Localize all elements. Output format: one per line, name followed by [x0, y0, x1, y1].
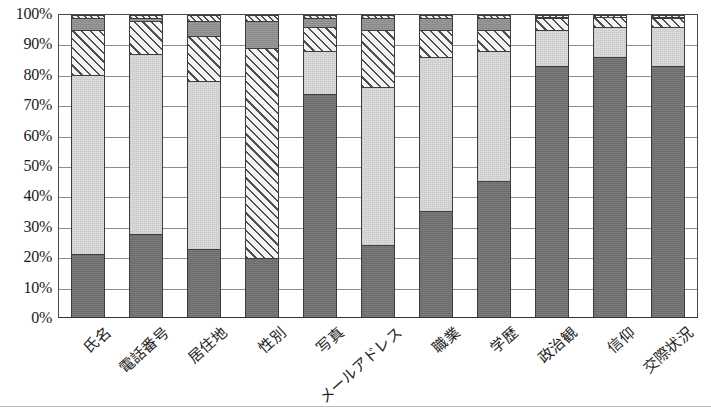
- bar-column: [303, 15, 336, 317]
- plot-area: [58, 14, 698, 318]
- x-axis-tick-label-text: 居住地: [186, 324, 230, 366]
- bar-segment: [593, 27, 626, 57]
- bar-column: [71, 15, 104, 317]
- bar-segment: [651, 18, 684, 27]
- bar-segment: [245, 21, 278, 48]
- bar-segment: [651, 27, 684, 66]
- y-tick-label: 50%: [24, 158, 52, 174]
- bar-segment: [361, 30, 394, 87]
- bar-segment: [419, 30, 452, 57]
- x-axis-tick-label: 信仰: [604, 324, 637, 356]
- bar-segment: [187, 36, 220, 81]
- bar-segment: [477, 51, 510, 181]
- bar-segment: [187, 81, 220, 249]
- y-tick-label: 70%: [24, 97, 52, 113]
- y-tick-label: 30%: [24, 219, 52, 235]
- y-tick-label: 100%: [16, 6, 52, 22]
- bar-segment: [71, 75, 104, 253]
- bar-segment: [303, 51, 336, 93]
- bar-segment: [361, 18, 394, 30]
- x-axis-tick-label: 性別: [255, 324, 288, 356]
- bar-segment: [71, 18, 104, 30]
- bar-segment: [245, 48, 278, 258]
- bar-segment: [535, 18, 568, 30]
- x-axis-tick-label-text: 電話番号: [117, 324, 172, 376]
- bar-segment: [651, 66, 684, 317]
- bar-segment: [535, 30, 568, 66]
- bar-segment: [187, 249, 220, 317]
- y-tick-label: 20%: [24, 249, 52, 265]
- bar-segment: [245, 258, 278, 317]
- bar-segment: [361, 87, 394, 244]
- x-axis-tick-label-text: 職業: [430, 324, 463, 356]
- x-axis-tick-label-text: 氏名: [81, 324, 114, 356]
- x-axis-tick-label: 電話番号: [117, 324, 172, 376]
- bar-segment: [303, 94, 336, 317]
- bar-column: [187, 15, 220, 317]
- bar-segment: [129, 234, 162, 317]
- y-tick-label: 40%: [24, 188, 52, 204]
- y-axis: 100%90%80%70%60%50%40%30%20%10%0%: [0, 0, 58, 411]
- bar-column: [419, 15, 452, 317]
- bar-segment: [593, 17, 626, 28]
- bar-column: [361, 15, 394, 317]
- bar-segment: [303, 18, 336, 27]
- x-axis-tick-label-text: 政治観: [535, 324, 579, 366]
- x-axis-tick-label-text: 写真: [314, 324, 347, 356]
- x-axis-tick-label: 交際状況: [640, 324, 695, 376]
- bar-segment: [303, 27, 336, 51]
- x-axis-tick-label: 学歴: [488, 324, 521, 356]
- bar-segment: [477, 30, 510, 51]
- bar-column: [535, 15, 568, 317]
- bar-segment: [593, 57, 626, 317]
- x-axis-labels: 氏名電話番号居住地性別写真メールアドレス職業学歴政治観信仰交際状況: [58, 318, 698, 411]
- x-axis-tick-label: 政治観: [535, 324, 579, 366]
- bar-segment: [419, 211, 452, 317]
- y-tick-label: 10%: [24, 280, 52, 296]
- x-axis-tick-label-text: 学歴: [488, 324, 521, 356]
- x-axis-tick-label-text: 性別: [255, 324, 288, 356]
- bar-segment: [419, 57, 452, 211]
- bar-segment: [129, 21, 162, 54]
- bar-segment: [361, 245, 394, 317]
- x-axis-tick-label: 居住地: [186, 324, 230, 366]
- bar-column: [651, 15, 684, 317]
- bar-segment: [477, 181, 510, 317]
- bars-layer: [59, 15, 697, 317]
- x-axis-tick-label: 写真: [314, 324, 347, 356]
- x-axis-tick-label: 氏名: [81, 324, 114, 356]
- y-tick-label: 0%: [31, 310, 52, 326]
- bar-column: [245, 15, 278, 317]
- bar-segment: [535, 66, 568, 317]
- x-axis-tick-label-text: 信仰: [604, 324, 637, 356]
- bar-segment: [129, 54, 162, 234]
- bar-column: [477, 15, 510, 317]
- y-tick-label: 90%: [24, 36, 52, 52]
- bottom-divider: [0, 406, 711, 407]
- bar-segment: [71, 30, 104, 75]
- bar-column: [129, 15, 162, 317]
- bar-segment: [477, 18, 510, 30]
- bar-column: [593, 15, 626, 317]
- y-tick-label: 80%: [24, 67, 52, 83]
- bar-segment: [71, 254, 104, 317]
- x-axis-tick-label-text: 交際状況: [640, 324, 695, 376]
- bar-segment: [187, 21, 220, 36]
- stacked-bar-chart: 100%90%80%70%60%50%40%30%20%10%0% 氏名電話番号…: [0, 0, 711, 411]
- bar-segment: [419, 18, 452, 30]
- x-axis-tick-label: 職業: [430, 324, 463, 356]
- y-tick-label: 60%: [24, 128, 52, 144]
